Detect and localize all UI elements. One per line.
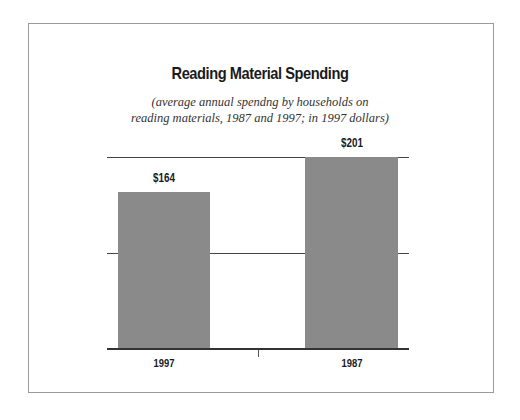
subtitle-line-1: (average annual spendng by households on	[0, 94, 520, 110]
subtitle-line-2: reading materials, 1987 and 1997; in 199…	[0, 110, 520, 126]
category-label-1987: 1987	[311, 357, 393, 369]
chart-title: Reading Material Spending	[36, 64, 483, 84]
bar-1987	[305, 157, 398, 349]
value-label-1997: $164	[123, 171, 205, 185]
x-axis-tick	[258, 350, 259, 357]
chart-subtitle: (average annual spendng by households on…	[0, 94, 520, 126]
bar-1997	[118, 192, 210, 349]
value-label-1987: $201	[311, 136, 393, 150]
category-label-1997: 1997	[123, 357, 205, 369]
